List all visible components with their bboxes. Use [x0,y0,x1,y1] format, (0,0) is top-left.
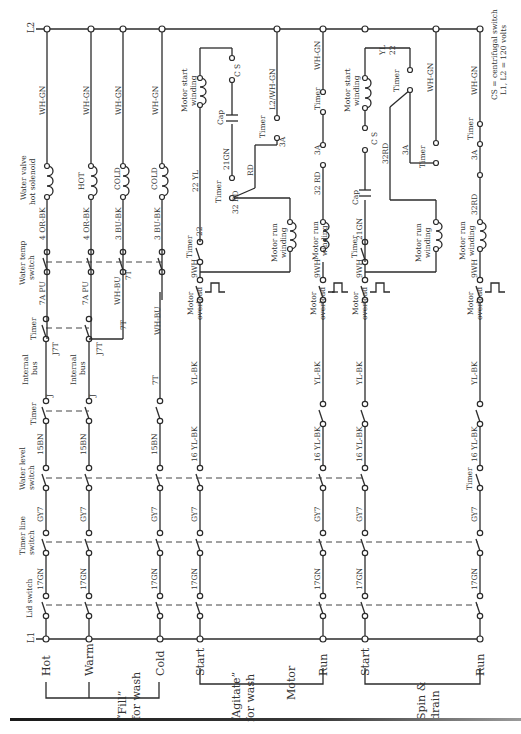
timer-label-agitate-2: Timer [214,180,223,203]
wire-whgn: WH-GN [114,85,123,115]
wire-3a-spin-run: 3A [470,149,479,160]
wire-21gn: 21GN [222,147,231,170]
wire-32rd-run: 32 RD [313,171,322,195]
water-valve-label-2: hot solenoid [28,158,37,205]
motor-overload-label-2b: overload [318,287,327,320]
washer-wiring-diagram: L2 L1 [0,0,521,734]
motor-start-label-2: winding [189,75,198,106]
wire-7t-c: 7T [124,270,133,280]
group-fill-1: “Fill” [116,691,129,720]
motor-overload-label-1d: Motor [466,291,475,315]
agitate-capacitor [226,115,238,121]
wire-15bn: 15BN [150,433,159,455]
valve-cold-label-1: COLD [113,167,122,190]
wire-9wh: 9WH [355,259,364,278]
rung-label-cold: Cold [154,650,167,676]
note-cs: CS = centrifugal switch [490,9,499,100]
wire-3bubk: 3 BU-BK [153,207,162,240]
wire-rd: RD [246,164,255,176]
wire-yl: YL [378,45,387,56]
l1-label: L1 [26,632,36,643]
switch-contacts [42,239,483,642]
group-agitate-2: for wash [244,674,257,722]
motor-overload-label-2d: overload [475,287,484,320]
wire-4orbk: 4 OR-BK [38,207,47,240]
agitate-motor-run-winding [288,220,297,252]
fill-upper-wires [47,29,162,339]
wire-j: J [45,394,54,398]
timer-label-spin-run-2: Timer [466,117,475,140]
agitate-motor-start-winding [198,76,207,108]
wire-7t-b: 7T [119,320,128,330]
group-spin-1: Spin & [415,681,428,720]
motor-overload-label-2c: overload [360,287,369,320]
wire-16ylbk: 16 YL-BK [190,426,199,462]
motor-run-label-1d: Motor run [458,221,467,260]
wire-7apu: 7A PU [81,281,90,305]
motor-run-label-2: winding [279,227,288,258]
motor-start-label-spin-1: Motor start [343,68,352,112]
timer-label-run: Timer [313,87,322,110]
motor-overload-label-2: overload [195,287,204,320]
wire-gy7: GY7 [150,506,159,522]
wire-7apu: 7A PU [38,281,47,305]
agitate-wiring [200,26,326,272]
timer-label-2: Timer [29,317,38,340]
wire-9wh: 9WH [190,259,199,278]
motor-run-label-1: Motor run [270,223,279,262]
wire-22: 22 [195,226,204,236]
spin-motor-start-winding [363,76,372,111]
wire-whgn-spin: WH-GN [426,62,435,92]
wire-gy7: GY7 [355,506,364,522]
timer-label-3a: Timer [258,115,267,138]
wire-gy7: GY7 [313,506,322,522]
internal-bus-label-1: Internal [21,354,30,385]
wire-7t: 7T [151,375,160,385]
timer-label-spin-run: Timer [465,467,474,490]
motor-run-label-2d: winding [467,225,476,256]
motor-start-label-spin-2: winding [352,75,361,106]
spin-run-motor-run-winding [478,220,489,252]
water-temp-switch-label-1: Water temp [18,240,27,285]
bottom-rule [10,718,521,721]
wire-whgn-spin-run: WH-GN [470,65,479,95]
wire-9wh: 9WH [313,259,322,278]
wire-17gn: 17GN [313,567,322,590]
timer-label-agitate: Timer [185,235,194,258]
note-voltage: L1, L2 = 120 volts [499,25,508,95]
wire-22-spin: 22 [388,45,397,55]
water-level-switch-label-1: Water level [18,447,27,490]
wire-17gn: 17GN [36,567,45,590]
wire-ylbk: YL-BK [313,361,322,386]
wire-j7t: J7T [95,342,104,356]
wire-32rd-spin: 32RD [381,143,390,164]
wire-ylbk: YL-BK [355,361,364,386]
wire-gy7: GY7 [79,506,88,522]
wire-whgn: WH-GN [151,85,160,115]
wire-l2whgn: L2/WH-GN [268,68,277,110]
wire-15bn: 15BN [79,433,88,455]
motor-start-label-1: Motor start [180,68,189,112]
timer-label-spin-2: Timer [392,69,401,92]
wire-16ylbk: 16 YL-BK [355,426,364,462]
water-level-switch-label-2: switch [27,465,36,490]
wire-j7t: J7T [51,342,60,356]
wire-9wh: 9WH [470,259,479,278]
motor-run-label-1c: Motor run [414,223,423,262]
motor-run-label-2c: winding [423,227,432,258]
wire-gy7: GY7 [190,506,199,522]
wire-j: J [88,394,97,398]
wire-gy7: GY7 [36,506,45,522]
wire-17gn: 17GN [355,567,364,590]
l2-label: L2 [26,22,36,33]
wire-15bn: 15BN [36,433,45,455]
wire-17gn: 17GN [79,567,88,590]
wire-whbu: WH-BU [153,306,162,335]
internal-bus-label-1b: Internal [69,354,78,385]
wire-32-rd: 32 RD [231,190,240,214]
spin-capacitor [359,190,371,196]
timer-line-switch-label-2: switch [27,530,36,555]
rung-label-hot: Hot [40,655,53,676]
group-agitate-1: “Agitate” [230,672,243,722]
cap-label: Cap [216,110,225,125]
